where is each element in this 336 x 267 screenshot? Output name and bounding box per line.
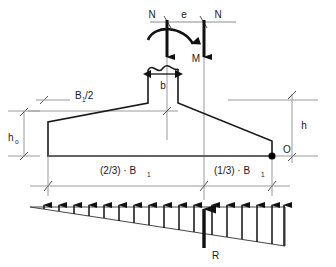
right-span-main: (1/3) · B <box>214 165 250 176</box>
footing-pressure-diagram: N e N M b B 1 /2 h o h O (2/3) · B 1 (1/… <box>0 0 336 267</box>
eccentricity-label: e <box>181 9 187 20</box>
origin-point-marker <box>268 152 275 159</box>
left-span-subscript: 1 <box>147 171 151 178</box>
resultant-label: R <box>212 250 219 261</box>
footing-edge-depth-main: h <box>8 132 14 143</box>
normal-force-left-label: N <box>148 9 155 20</box>
column-width-label: b <box>160 80 166 91</box>
diagram-canvas: N e N M b B 1 /2 h o h O (2/3) · B 1 (1/… <box>0 0 336 267</box>
right-span-label: (1/3) · B 1 <box>214 165 265 178</box>
origin-point-label: O <box>283 144 291 155</box>
footing-edge-depth-subscript: o <box>15 138 19 145</box>
left-span-main: (2/3) · B <box>100 165 136 176</box>
normal-force-right-label: N <box>214 9 221 20</box>
pressure-slope-line <box>30 207 285 246</box>
right-span-subscript: 1 <box>261 171 265 178</box>
moment-label: M <box>192 53 200 64</box>
half-base-width-label: B 1 /2 <box>75 90 94 103</box>
moment-arrow <box>148 29 193 44</box>
left-span-label: (2/3) · B 1 <box>100 165 151 178</box>
half-base-width-suffix: /2 <box>85 90 94 101</box>
footing-edge-depth-label: h o <box>8 132 19 145</box>
footing-total-depth-label: h <box>301 120 307 131</box>
column-break-line <box>148 66 178 71</box>
half-base-width-main: B <box>75 90 82 101</box>
